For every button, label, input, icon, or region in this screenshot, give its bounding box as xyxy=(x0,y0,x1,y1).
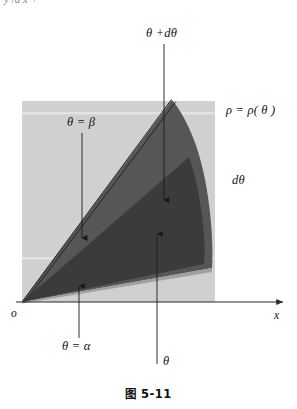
label-dtheta: dθ xyxy=(232,174,245,187)
label-theta-equals-alpha: θ = α xyxy=(62,340,90,353)
label-theta: θ xyxy=(163,355,169,368)
label-theta-equals-beta: θ = β xyxy=(67,116,95,129)
label-rho-of-theta: ρ = ρ( θ ) xyxy=(226,104,275,117)
label-theta-plus-dtheta: θ +dθ xyxy=(146,27,177,40)
label-x-axis: x xyxy=(274,310,279,322)
panel-highlight-band-top xyxy=(22,112,215,114)
polar-sector-diagram xyxy=(0,0,297,409)
label-origin-o: o xyxy=(11,308,17,320)
figure-caption: 图 5-11 xyxy=(0,385,297,401)
figure-container: y /d x + xyxy=(0,0,297,409)
